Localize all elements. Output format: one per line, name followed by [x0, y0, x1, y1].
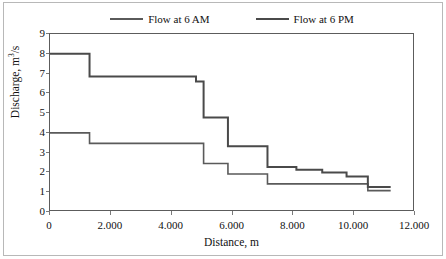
x-tick-label: 10.000: [338, 219, 368, 231]
chart-legend: Flow at 6 AM Flow at 6 PM: [49, 10, 415, 28]
legend-label-6am: Flow at 6 AM: [148, 14, 209, 25]
x-tick-mark: [110, 211, 111, 215]
x-tick-mark: [414, 211, 415, 215]
legend-line-swatch-6am: [110, 18, 143, 20]
x-tick-mark: [292, 211, 293, 215]
legend-line-swatch-6pm: [256, 18, 289, 20]
series-line-flow-6pm: [50, 54, 391, 187]
y-axis-title: Discharge, m3/s: [7, 2, 21, 162]
x-tick-mark: [353, 211, 354, 215]
x-axis-tick-labels: 02.0004.0006.0008.00010.00012.000: [49, 219, 414, 233]
x-tick-mark: [171, 211, 172, 215]
series-line-flow-6am: [50, 133, 391, 191]
legend-item-flow-6pm: Flow at 6 PM: [256, 14, 354, 25]
x-tick-mark: [49, 211, 50, 215]
x-tick-label: 8.000: [280, 219, 305, 231]
legend-item-flow-6am: Flow at 6 AM: [110, 14, 209, 25]
x-axis-title: Distance, m: [49, 236, 414, 248]
y-axis-title-tail: /s: [9, 46, 21, 54]
x-axis-ticks: [49, 211, 414, 217]
y-axis-tick-labels: 0123456789: [30, 27, 45, 217]
x-tick-label: 4.000: [158, 219, 183, 231]
x-tick-label: 12.000: [399, 219, 429, 231]
y-axis-title-main: Discharge, m: [9, 57, 21, 118]
y-axis-title-exponent: 3: [7, 53, 16, 57]
x-tick-label: 0: [46, 219, 52, 231]
plot-svg: [50, 34, 415, 212]
x-tick-mark: [232, 211, 233, 215]
x-tick-label: 2.000: [97, 219, 122, 231]
x-tick-label: 6.000: [219, 219, 244, 231]
chart-figure: Flow at 6 AM Flow at 6 PM 0123456789 Dis…: [0, 0, 446, 259]
plot-area: [49, 33, 414, 211]
legend-label-6pm: Flow at 6 PM: [294, 14, 354, 25]
